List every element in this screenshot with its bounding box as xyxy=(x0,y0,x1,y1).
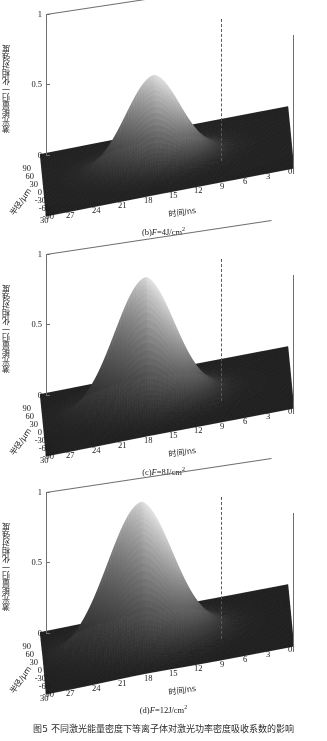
caption-prefix-b: (b) xyxy=(142,227,152,237)
x-tick-21: 21 xyxy=(118,679,127,687)
x-tick-12: 12 xyxy=(194,186,203,194)
z-tick-1: 1 xyxy=(38,488,42,496)
x-tick-3: 3 xyxy=(266,650,270,658)
z-tick-05: 0.5 xyxy=(31,558,42,566)
box-right-vertical-edge xyxy=(293,35,294,174)
reference-dashed-line xyxy=(221,259,222,401)
z-tick-0: 0 xyxy=(38,629,42,637)
z-tick-05: 0.5 xyxy=(31,80,42,88)
axis-box-b: 1 0.5 0 xyxy=(46,14,294,174)
x-tick-27: 27 xyxy=(66,451,75,459)
x-tick-0: 0 xyxy=(288,645,292,653)
panel-d: 1 0.5 0 激光能量归一化相对强度 0 3 6 9 12 15 18 21 … xyxy=(0,478,327,718)
caption-prefix-d: (d) xyxy=(140,705,150,715)
x-tick-18: 18 xyxy=(144,674,153,682)
box-right-vertical-edge xyxy=(293,513,294,652)
z-tick-1: 1 xyxy=(38,10,42,18)
caption-exp-b: 2 xyxy=(182,226,185,232)
x-tick-24: 24 xyxy=(92,446,101,454)
reference-dashed-line xyxy=(221,497,222,639)
x-tick-24: 24 xyxy=(92,206,101,214)
caption-exp-d: 2 xyxy=(184,704,187,710)
x-tick-6: 6 xyxy=(243,417,247,425)
z-tick-0: 0 xyxy=(38,391,42,399)
x-tick-27: 27 xyxy=(66,689,75,697)
x-tick-3: 3 xyxy=(266,412,270,420)
z-tick-05: 0.5 xyxy=(31,320,42,328)
x-tick-18: 18 xyxy=(144,436,153,444)
z-axis-label: 激光能量归一化相对强度 xyxy=(2,34,15,144)
z-axis-label: 激光能量归一化相对强度 xyxy=(2,512,15,622)
axis-box-c: 1 0.5 0 xyxy=(46,254,294,414)
figure-container: 1 0.5 0 激光能量归一化相对强度 0 3 6 9 12 15 18 21 … xyxy=(0,0,327,741)
axis-box-d: 1 0.5 0 xyxy=(46,492,294,652)
x-tick-12: 12 xyxy=(194,426,203,434)
x-tick-21: 21 xyxy=(118,201,127,209)
y-tick-n90: -90 xyxy=(36,452,54,460)
x-tick-21: 21 xyxy=(118,441,127,449)
x-tick-15: 15 xyxy=(169,669,178,677)
x-axis-label: 时间/ns xyxy=(167,204,196,219)
panel-c: 1 0.5 0 激光能量归一化相对强度 0 3 6 9 12 15 18 21 … xyxy=(0,240,327,480)
x-tick-24: 24 xyxy=(92,684,101,692)
y-tick-n90: -90 xyxy=(36,690,54,698)
x-tick-0: 0 xyxy=(288,407,292,415)
panel-caption-d: (d)F=12J/cm2 xyxy=(0,704,327,715)
x-tick-6: 6 xyxy=(243,177,247,185)
x-tick-3: 3 xyxy=(266,172,270,180)
z-tick-1: 1 xyxy=(38,250,42,258)
x-tick-27: 27 xyxy=(66,211,75,219)
x-tick-0: 0 xyxy=(288,167,292,175)
x-tick-6: 6 xyxy=(243,655,247,663)
x-tick-9: 9 xyxy=(220,182,224,190)
reference-dashed-line xyxy=(221,19,222,161)
box-top-edge xyxy=(46,0,272,15)
x-tick-9: 9 xyxy=(220,422,224,430)
x-tick-15: 15 xyxy=(169,191,178,199)
x-tick-9: 9 xyxy=(220,660,224,668)
z-tick-0: 0 xyxy=(38,151,42,159)
caption-value-d: =12J/cm xyxy=(155,705,184,715)
y-tick-n90: -90 xyxy=(36,212,54,220)
x-axis-label: 时间/ns xyxy=(167,444,196,459)
z-axis-label: 激光能量归一化相对强度 xyxy=(2,274,15,384)
x-tick-12: 12 xyxy=(194,664,203,672)
figure-caption: 图5 不同激光能量密度下等离子体对激光功率密度吸收系数的影响 xyxy=(0,722,327,735)
x-tick-18: 18 xyxy=(144,196,153,204)
x-axis-label: 时间/ns xyxy=(167,682,196,697)
x-tick-15: 15 xyxy=(169,431,178,439)
box-right-vertical-edge xyxy=(293,275,294,414)
panel-b: 1 0.5 0 激光能量归一化相对强度 0 3 6 9 12 15 18 21 … xyxy=(0,0,327,240)
